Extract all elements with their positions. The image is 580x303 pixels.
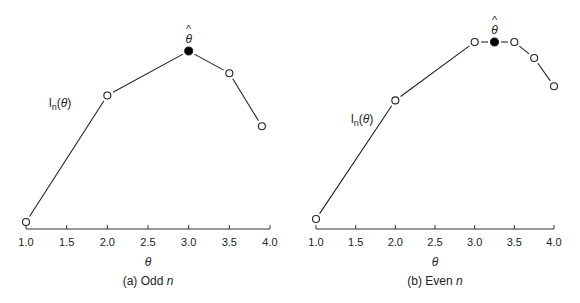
data-point-marker xyxy=(258,123,265,130)
x-axis-title: θ xyxy=(432,255,439,269)
panel-b: 1.01.52.02.53.03.54.0θ(b) Even nθ^ln(θ) xyxy=(308,14,561,288)
x-tick-label: 2.5 xyxy=(140,236,155,248)
x-tick-label: 1.0 xyxy=(18,236,33,248)
panel-a: 1.01.52.02.53.03.54.0θ(a) Odd nθ^ln(θ) xyxy=(18,23,277,288)
x-tick-label: 2.0 xyxy=(388,236,403,248)
x-tick-label: 3.0 xyxy=(467,236,482,248)
curve-segment xyxy=(30,101,104,217)
figure-canvas: 1.01.52.02.53.03.54.0θ(a) Odd nθ^ln(θ)1.… xyxy=(0,0,580,303)
data-point-marker xyxy=(392,97,399,104)
data-point-marker xyxy=(104,92,111,99)
curve-segment xyxy=(233,79,259,121)
data-point-marker xyxy=(226,70,233,77)
curve-label: ln(θ) xyxy=(49,96,71,112)
curve-label: ln(θ) xyxy=(351,112,373,128)
curve-segment xyxy=(401,46,470,97)
data-point-marker xyxy=(23,219,30,226)
x-axis-title: θ xyxy=(145,255,152,269)
panel-caption: (a) Odd n xyxy=(123,274,174,288)
data-point-marker xyxy=(531,54,538,61)
x-tick-label: 1.5 xyxy=(59,236,74,248)
hat-accent: ^ xyxy=(492,14,498,26)
x-tick-label: 1.0 xyxy=(308,236,323,248)
data-point-marker xyxy=(313,216,320,223)
curve-segment xyxy=(194,54,223,70)
max-point-marker xyxy=(185,47,193,55)
curve-segment xyxy=(519,46,529,54)
hat-accent: ^ xyxy=(186,23,192,35)
x-tick-label: 4.0 xyxy=(262,236,277,248)
x-tick-label: 3.0 xyxy=(181,236,196,248)
x-tick-label: 4.0 xyxy=(546,236,561,248)
x-tick-label: 2.0 xyxy=(100,236,115,248)
curve-segment xyxy=(538,63,550,81)
x-tick-label: 3.5 xyxy=(222,236,237,248)
data-point-marker xyxy=(471,39,478,46)
max-point-marker xyxy=(491,38,499,46)
data-point-marker xyxy=(551,83,558,90)
x-tick-label: 1.5 xyxy=(348,236,363,248)
x-tick-label: 2.5 xyxy=(427,236,442,248)
x-tick-label: 3.5 xyxy=(507,236,522,248)
curve-segment xyxy=(113,54,183,92)
data-point-marker xyxy=(511,39,518,46)
panel-caption: (b) Even n xyxy=(407,274,463,288)
